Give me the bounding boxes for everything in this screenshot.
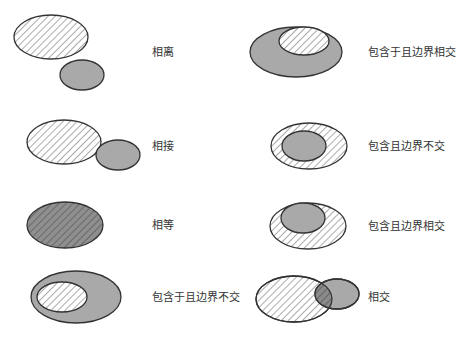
relation-overlap: 相交 xyxy=(256,276,390,322)
relation-contained-in-touch: 包含于且边界相交 xyxy=(250,27,456,77)
relation-label: 包含于且边界不交 xyxy=(152,290,240,304)
relation-contains-touch: 包含且边界相交 xyxy=(270,203,445,249)
relation-disjoint: 相离 xyxy=(14,15,174,90)
hatched-region xyxy=(14,15,88,59)
relation-label: 包含且边界不交 xyxy=(368,139,445,153)
coincident-region xyxy=(27,202,103,248)
relation-label: 包含于且边界相交 xyxy=(368,45,456,59)
gray-region xyxy=(281,203,325,233)
gray-region xyxy=(60,60,104,90)
gray-region xyxy=(282,131,326,161)
relation-label: 相等 xyxy=(152,218,174,232)
hatched-region xyxy=(27,120,101,164)
relation-contained-in-no-touch: 包含于且边界不交 xyxy=(31,271,240,323)
region-relations-diagram: 相离 相接 相等 包含于且边界不交 包含于且边界相交 包含且边界不交 包含且边界… xyxy=(0,0,464,342)
relation-label: 相接 xyxy=(152,140,174,153)
relation-label: 相交 xyxy=(368,290,390,304)
gray-region xyxy=(96,140,140,170)
relation-contains-no-touch: 包含且边界不交 xyxy=(271,123,445,169)
hatched-region xyxy=(279,27,329,55)
relation-label: 相离 xyxy=(152,45,174,59)
relation-label: 包含且边界相交 xyxy=(368,219,445,233)
relation-tangent: 相接 xyxy=(27,120,174,170)
relation-equal: 相等 xyxy=(27,202,174,248)
hatched-region xyxy=(37,282,87,312)
